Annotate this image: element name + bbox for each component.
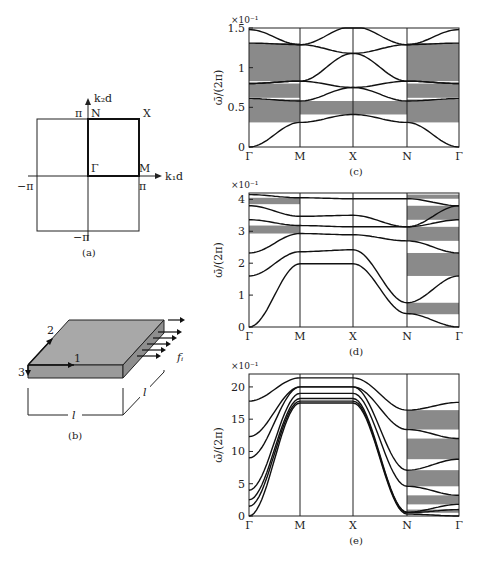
y-tick-label: 20 xyxy=(231,381,245,394)
band-gap xyxy=(249,84,300,98)
chart-d: 01234ΓMXNΓ×10⁻¹ω̄/(2π)(d) xyxy=(212,180,463,357)
length-label-front: l xyxy=(72,409,76,422)
x-tick-label: Γ xyxy=(245,150,253,163)
band-gap xyxy=(407,470,459,486)
band-gap xyxy=(407,495,459,504)
x-tick-label: M xyxy=(294,519,305,532)
x-tick-label: X xyxy=(349,150,357,163)
panel-a-brillouin-zone: k₁d k₂d π N X Γ M π −π −π (a) xyxy=(17,92,183,258)
band-gap xyxy=(249,198,300,204)
y-tick-label: 1 xyxy=(238,62,245,75)
y-tick-label: 0 xyxy=(238,321,245,334)
y-multiplier: ×10⁻¹ xyxy=(231,361,258,371)
y-tick-label: 2 xyxy=(238,257,245,270)
dispersion-charts: 00.511.5ΓMXNΓ×10⁻¹ω̄/(2π)(c)01234ΓMXNΓ×1… xyxy=(212,15,463,546)
length-label-side: l xyxy=(143,386,147,399)
y-tick-label: 4 xyxy=(238,193,245,206)
y-tick-label: 3 xyxy=(238,225,245,238)
band-gap xyxy=(407,253,459,276)
point-m: M xyxy=(139,162,150,175)
band-gap xyxy=(407,410,459,429)
caption-d: (d) xyxy=(349,346,363,357)
y-tick-label: 15 xyxy=(231,413,245,426)
band-gap xyxy=(249,99,300,122)
k1-label: k₁d xyxy=(165,170,183,183)
band-gap xyxy=(407,227,459,241)
k2-label: k₂d xyxy=(94,92,112,105)
tick-y-neg-pi: −π xyxy=(73,231,89,244)
point-x: X xyxy=(143,107,151,120)
y-tick-label: 10 xyxy=(231,445,245,458)
band-gap xyxy=(249,226,300,234)
y-tick-label: 0 xyxy=(238,510,245,523)
x-tick-label: N xyxy=(402,150,412,163)
band-gap xyxy=(407,206,459,220)
y-axis-label: ω̄/(2π) xyxy=(212,70,225,106)
x-tick-label: N xyxy=(402,519,412,532)
x-tick-label: M xyxy=(294,330,305,343)
band-gap xyxy=(407,195,459,199)
y-axis-label: ω̄/(2π) xyxy=(212,242,225,278)
tick-y-pi: π xyxy=(75,107,82,120)
y-axis-label: ω̄/(2π) xyxy=(212,427,225,463)
y-tick-label: 5 xyxy=(238,478,245,491)
point-n: N xyxy=(91,107,101,120)
point-gamma: Γ xyxy=(91,162,99,175)
y-tick-label: 1 xyxy=(238,289,245,302)
band-gap xyxy=(407,99,459,122)
k2-arrow-icon xyxy=(85,98,91,105)
caption-b: (b) xyxy=(68,430,82,441)
x-tick-label: Γ xyxy=(455,150,463,163)
caption-c: (c) xyxy=(349,166,363,177)
band-gap xyxy=(407,439,459,460)
dispersion-branch-6 xyxy=(249,28,459,45)
y-multiplier: ×10⁻¹ xyxy=(231,180,258,190)
axis-1-label: 1 xyxy=(74,352,81,365)
tick-x-pi: π xyxy=(139,180,146,193)
chart-e: 05101520ΓMXNΓ×10⁻¹ω̄/(2π)(e) xyxy=(212,361,463,546)
band-gap xyxy=(249,43,300,81)
x-tick-label: Γ xyxy=(245,519,253,532)
y-multiplier: ×10⁻¹ xyxy=(231,15,258,25)
x-tick-label: M xyxy=(294,150,305,163)
figure-canvas: k₁d k₂d π N X Γ M π −π −π (a) 1 2 3 xyxy=(0,0,479,564)
tick-x-neg-pi: −π xyxy=(17,180,33,193)
plate-front-face xyxy=(28,365,123,378)
band-gap xyxy=(407,303,459,314)
x-tick-label: Γ xyxy=(245,330,253,343)
x-tick-label: Γ xyxy=(455,519,463,532)
chart-c: 00.511.5ΓMXNΓ×10⁻¹ω̄/(2π)(c) xyxy=(212,15,463,177)
axis-2-label: 2 xyxy=(47,324,54,337)
y-tick-label: 0 xyxy=(238,141,245,154)
y-tick-label: 0.5 xyxy=(228,101,246,114)
x-tick-label: Γ xyxy=(455,330,463,343)
panel-b-plate: 1 2 3 fᵢ l l (b) xyxy=(18,317,185,441)
band-gap xyxy=(407,84,459,98)
x-tick-label: X xyxy=(349,519,357,532)
force-label: fᵢ xyxy=(176,351,183,364)
x-tick-label: N xyxy=(402,330,412,343)
caption-a: (a) xyxy=(82,247,96,258)
k1-arrow-icon xyxy=(155,173,162,179)
axis-3-label: 3 xyxy=(18,366,25,379)
band-gap xyxy=(407,43,459,81)
x-tick-label: X xyxy=(349,330,357,343)
caption-e: (e) xyxy=(349,535,363,546)
